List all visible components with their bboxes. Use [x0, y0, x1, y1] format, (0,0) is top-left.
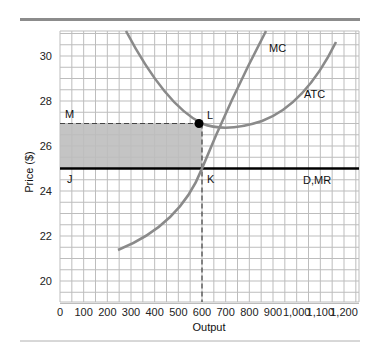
atc-curve — [126, 31, 336, 128]
label-m: M — [65, 108, 74, 120]
x-tick-label: 0 — [57, 306, 63, 318]
y-tick-label: 22 — [40, 230, 52, 242]
profit-chart: 202224262830 010020030040050060070080090… — [0, 0, 378, 356]
x-tick-label: 700 — [216, 306, 234, 318]
y-tick-label: 28 — [40, 95, 52, 107]
x-tick-label: 600 — [193, 306, 211, 318]
x-axis-ticks: 01002003004005006007008009001,0001,1001,… — [57, 306, 358, 318]
x-axis-title: Output — [192, 321, 225, 333]
label-k: K — [207, 173, 215, 185]
point-l — [195, 119, 204, 128]
y-axis-title: Price ($) — [23, 151, 35, 193]
x-tick-label: 1,200 — [330, 306, 358, 318]
y-tick-label: 26 — [40, 140, 52, 152]
x-tick-label: 300 — [122, 306, 140, 318]
y-tick-label: 30 — [40, 50, 52, 62]
x-tick-label: 900 — [264, 306, 282, 318]
y-axis-ticks: 202224262830 — [40, 50, 52, 287]
label-j: J — [67, 173, 73, 185]
x-tick-label: 400 — [145, 306, 163, 318]
label-atc: ATC — [304, 88, 325, 100]
label-d-mr: D,MR — [303, 174, 331, 186]
y-tick-label: 24 — [40, 185, 52, 197]
x-tick-label: 500 — [169, 306, 187, 318]
x-tick-label: 200 — [98, 306, 116, 318]
label-mc: MC — [269, 42, 286, 54]
x-tick-label: 100 — [74, 306, 92, 318]
y-tick-label: 20 — [40, 275, 52, 287]
label-l: L — [207, 109, 213, 121]
x-tick-label: 800 — [240, 306, 258, 318]
